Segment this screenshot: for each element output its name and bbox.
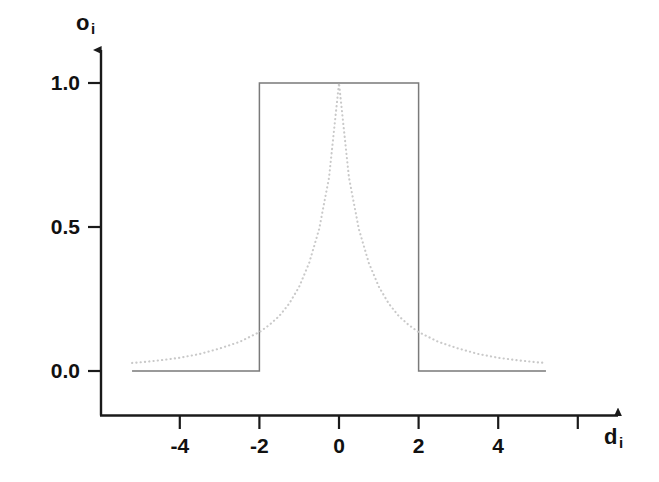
x-tick-label: -4 <box>170 434 189 458</box>
y-axis-ticks <box>88 83 101 371</box>
x-tick-label: 4 <box>492 434 504 458</box>
x-axis-ticks <box>180 416 578 430</box>
plot-canvas <box>0 0 659 482</box>
y-axis-title-main: o <box>76 10 90 35</box>
chart-figure: oi di 1.00.50.0 -4-2024 <box>0 0 659 482</box>
y-tick-label: 0.5 <box>51 215 80 239</box>
x-axis-title-subscript: i <box>619 434 624 451</box>
x-tick-label: 0 <box>333 434 345 458</box>
data-series-layer <box>132 83 546 371</box>
y-tick-label: 0.0 <box>51 359 80 383</box>
y-axis-title-subscript: i <box>91 20 96 37</box>
y-tick-label: 1.0 <box>51 71 80 95</box>
x-tick-label: -2 <box>250 434 269 458</box>
x-axis-title-main: d <box>604 424 618 449</box>
x-tick-label: 2 <box>413 434 425 458</box>
series-smooth-curve <box>132 83 546 363</box>
x-axis-title: di <box>604 424 624 451</box>
series-step-curve <box>132 83 546 371</box>
y-axis-title: oi <box>76 10 96 37</box>
